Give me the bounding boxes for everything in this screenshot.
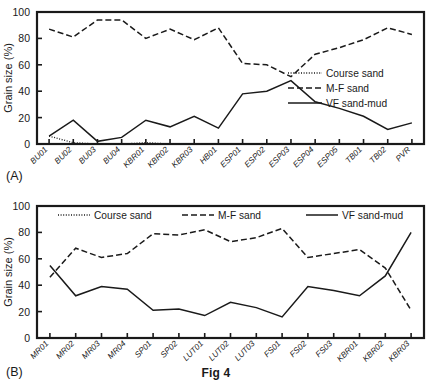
chart-panel-a: 020406080100Grain size (%)BU01BU02BU03BU… (0, 0, 432, 196)
chart-a-svg: 020406080100Grain size (%)BU01BU02BU03BU… (0, 0, 432, 196)
x-tick-label: LUT03 (233, 339, 257, 363)
y-tick-label: 20 (18, 112, 30, 124)
x-tick-label: ESP03 (267, 145, 292, 170)
y-axis-label: Grain size (%) (2, 237, 14, 307)
x-tick-label: SP02 (159, 339, 180, 360)
x-tick-label: MR04 (106, 339, 128, 361)
x-tick-label: FS01 (262, 339, 282, 359)
x-tick-label: LUT01 (181, 339, 205, 363)
x-tick-label: ESP01 (219, 145, 243, 169)
x-tick-label: SP01 (133, 339, 154, 360)
y-tick-label: 60 (18, 253, 30, 265)
y-tick-label: 100 (12, 200, 30, 212)
x-tick-label: ESP04 (291, 145, 316, 170)
x-tick-label: BU04 (101, 145, 122, 166)
series-vf-sand-mud (50, 232, 411, 316)
x-tick-label: MR01 (29, 339, 51, 361)
chart-b-svg: 020406080100Grain size (%)MR01MR02MR03MR… (0, 190, 432, 392)
legend-label-1: Course sand (326, 68, 384, 79)
x-tick-label: MR02 (54, 339, 76, 361)
x-tick-label: BU02 (53, 145, 74, 166)
x-tick-label: KBR03 (170, 145, 195, 170)
y-tick-label: 40 (18, 85, 30, 97)
plot-frame (37, 206, 424, 338)
x-tick-label: FS03 (314, 339, 335, 360)
x-tick-label: TB02 (368, 145, 389, 166)
x-tick-label: KBR01 (122, 145, 147, 170)
x-tick-label: KBR01 (335, 339, 360, 364)
legend-label-3: VF sand-mud (342, 210, 403, 221)
y-tick-label: 80 (18, 226, 30, 238)
y-tick-label: 100 (12, 6, 30, 18)
panel-tag: (A) (6, 169, 23, 183)
legend-label-2: M-F sand (326, 83, 369, 94)
legend-label-1: Course sand (94, 210, 152, 221)
series-m-f-sand (50, 228, 411, 310)
y-tick-label: 40 (18, 279, 30, 291)
y-tick-label: 20 (18, 306, 30, 318)
x-tick-label: LUT02 (207, 339, 231, 363)
y-axis-label: Grain size (%) (2, 43, 14, 113)
x-tick-label: HB01 (198, 145, 219, 166)
x-tick-label: TB01 (344, 145, 364, 165)
legend-label-3: VF sand-mud (326, 98, 387, 109)
x-tick-label: PVR (394, 145, 412, 163)
y-tick-label: 80 (18, 32, 30, 44)
y-tick-label: 0 (24, 332, 30, 344)
x-tick-label: KBR02 (361, 339, 386, 364)
figure-4: 020406080100Grain size (%)BU01BU02BU03BU… (0, 0, 432, 392)
x-tick-label: FS02 (288, 339, 309, 360)
y-tick-label: 0 (24, 138, 30, 150)
x-tick-label: KBR02 (146, 145, 171, 170)
x-tick-label: KBR03 (387, 339, 412, 364)
y-tick-label: 60 (18, 59, 30, 71)
figure-caption: Fig 4 (0, 366, 432, 380)
x-tick-label: ESP02 (243, 145, 268, 170)
x-tick-label: BU01 (29, 145, 50, 166)
x-tick-label: BU03 (77, 145, 98, 166)
legend-label-2: M-F sand (218, 210, 261, 221)
x-tick-label: MR03 (80, 339, 102, 361)
chart-panel-b: 020406080100Grain size (%)MR01MR02MR03MR… (0, 190, 432, 392)
x-tick-label: ESP05 (315, 145, 340, 170)
